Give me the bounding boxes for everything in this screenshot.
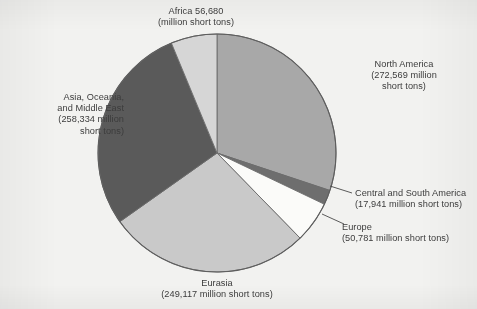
chart-page: Africa 56,680 (million short tons) North… — [0, 0, 477, 309]
leader-line-europe — [322, 214, 344, 224]
slice-label-asia-oceania-middle-east: Asia, Oceania, and Middle East (258,334 … — [2, 92, 124, 137]
slice-label-central-and-south-america: Central and South America (17,941 millio… — [355, 188, 477, 210]
slice-label-europe: Europe (50,781 million short tons) — [342, 222, 477, 244]
slice-label-north-america: North America (272,569 million short ton… — [338, 59, 470, 93]
slice-label-africa: Africa 56,680 (million short tons) — [128, 6, 264, 28]
leader-line-central-and-south-america — [330, 186, 352, 193]
pie-chart — [0, 0, 477, 309]
pie-slice-group — [98, 34, 336, 272]
slice-label-eurasia: Eurasia (249,117 million short tons) — [124, 278, 310, 300]
